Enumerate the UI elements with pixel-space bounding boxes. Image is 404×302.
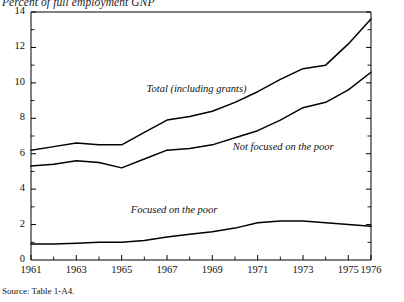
x-axis-tick-label: 1976 (351, 264, 391, 275)
y-axis-tick-label: 0 (5, 253, 25, 264)
chart-canvas (0, 0, 404, 302)
y-axis-tick-label: 4 (5, 182, 25, 193)
y-axis-tick-label: 6 (5, 147, 25, 158)
series-label-2: Focused on the poor (131, 204, 218, 215)
series-label-0: Total (including grants) (147, 83, 247, 94)
y-axis-tick-label: 14 (5, 5, 25, 16)
x-axis-tick-label: 1969 (192, 264, 232, 275)
x-axis-tick-label: 1967 (147, 264, 187, 275)
x-axis-tick-label: 1965 (102, 264, 142, 275)
y-axis-tick-label: 12 (5, 40, 25, 51)
x-axis-tick-label: 1971 (238, 264, 278, 275)
series-label-1: Not focused on the poor (233, 141, 334, 152)
x-axis-tick-label: 1973 (283, 264, 323, 275)
y-axis-tick-label: 8 (5, 111, 25, 122)
x-axis-tick-label: 1961 (11, 264, 51, 275)
x-axis-tick-label: 1963 (56, 264, 96, 275)
source-note: Source: Table 1-A4. (2, 286, 74, 296)
y-axis-tick-label: 10 (5, 76, 25, 87)
series-line-2 (31, 221, 371, 244)
chart-figure: Percent of full employment GNP 024681012… (0, 0, 404, 302)
y-axis-tick-label: 2 (5, 218, 25, 229)
